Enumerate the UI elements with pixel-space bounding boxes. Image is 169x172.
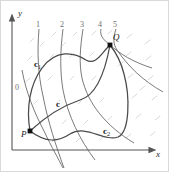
path-label-c1-subscript: 1 <box>38 64 41 70</box>
x-axis-arrow <box>149 148 155 153</box>
paths-group <box>29 45 128 140</box>
point-Q-marker <box>108 43 113 48</box>
level-label-4: 4 <box>98 21 102 29</box>
point-P-marker <box>28 129 33 134</box>
level-curve-5 <box>114 29 163 92</box>
level-label-5: 5 <box>113 21 117 29</box>
level-label-0: 0 <box>15 84 19 92</box>
path-label-c1: c1 <box>34 60 41 70</box>
level-label-1: 1 <box>36 21 40 29</box>
level-label-3: 3 <box>80 21 84 29</box>
level-curve-hatch-marks <box>26 30 160 142</box>
path-label-c2-subscript: 2 <box>107 131 110 137</box>
x-axis-label: x <box>156 150 160 159</box>
level-curve-1 <box>38 29 64 168</box>
y-axis-arrow <box>10 15 15 21</box>
path-label-c2: c2 <box>103 127 110 137</box>
path-label-c-base: c <box>56 99 60 109</box>
level-curve-line-integral-figure: y x 0 1 2 3 4 5 c1 c c2 P Q <box>0 0 169 172</box>
y-axis-label: y <box>18 9 22 18</box>
point-label-P: P <box>21 130 27 139</box>
level-curves-group <box>22 29 163 168</box>
point-label-Q: Q <box>113 33 120 42</box>
path-c2 <box>30 45 128 140</box>
path-c1 <box>29 45 111 131</box>
figure-canvas <box>0 0 169 172</box>
path-label-c: c <box>56 100 60 110</box>
level-label-2: 2 <box>60 21 64 29</box>
